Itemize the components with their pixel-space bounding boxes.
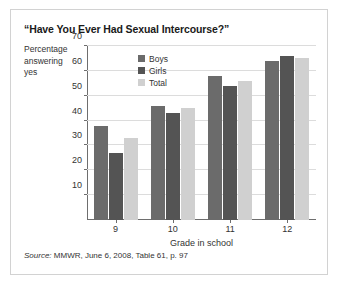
y-tick-label: 30	[72, 130, 82, 140]
x-tick-label: 12	[259, 224, 316, 234]
x-tick-mark	[230, 220, 231, 223]
source-citation: MMWR, June 6, 2008, Table 61, p. 97	[52, 251, 188, 260]
chart-figure: “Have You Ever Had Sexual Intercourse?” …	[10, 9, 328, 275]
x-tick-mark	[173, 220, 174, 223]
y-tick-label: 20	[72, 155, 82, 165]
legend-label-total: Total	[149, 78, 167, 88]
bar-group: 12	[259, 46, 316, 220]
x-tick-label: 9	[87, 224, 144, 234]
legend-swatch-total	[138, 79, 145, 86]
legend-label-boys: Boys	[149, 54, 168, 64]
legend-label-girls: Girls	[149, 66, 166, 76]
bar-boys-grade-11	[208, 76, 222, 220]
bar-boys-grade-9	[94, 126, 108, 220]
y-tick-label: 70	[72, 31, 82, 41]
y-axis-label-line-3: yes	[24, 67, 82, 79]
bar-group: 9	[87, 46, 144, 220]
bar-total-grade-11	[238, 81, 252, 220]
y-tick-label: 50	[72, 81, 82, 91]
chart-title: “Have You Ever Had Sexual Intercourse?”	[24, 23, 229, 35]
bar-boys-grade-12	[265, 61, 279, 220]
bar-total-grade-9	[124, 138, 138, 220]
bar-girls-grade-11	[223, 86, 237, 220]
plot-area: 10203040506070 9101112	[87, 46, 316, 220]
y-tick-label: 60	[72, 56, 82, 66]
y-tick-label: 40	[72, 106, 82, 116]
bar-boys-grade-10	[151, 106, 165, 220]
bar-girls-grade-12	[280, 56, 294, 220]
x-tick-label: 10	[144, 224, 201, 234]
bar-girls-grade-9	[109, 153, 123, 220]
legend-item-boys: Boys	[138, 53, 168, 64]
legend-item-total: Total	[138, 77, 168, 88]
source-prefix: Source:	[24, 251, 52, 260]
source-note: Source: MMWR, June 6, 2008, Table 61, p.…	[24, 251, 188, 260]
legend-swatch-girls	[138, 67, 145, 74]
legend-swatch-boys	[138, 55, 145, 62]
y-axis-label-line-1: Percentage	[24, 44, 82, 56]
x-axis-label: Grade in school	[87, 238, 316, 248]
bar-total-grade-10	[181, 108, 195, 220]
bar-girls-grade-10	[166, 113, 180, 220]
x-tick-label: 11	[202, 224, 259, 234]
legend-item-girls: Girls	[138, 65, 168, 76]
bar-total-grade-12	[295, 58, 309, 220]
bar-group: 11	[202, 46, 259, 220]
x-tick-mark	[116, 220, 117, 223]
bar-groups: 9101112	[87, 46, 316, 220]
x-tick-mark	[287, 220, 288, 223]
y-tick-label: 10	[72, 180, 82, 190]
chart-legend: BoysGirlsTotal	[138, 53, 168, 89]
